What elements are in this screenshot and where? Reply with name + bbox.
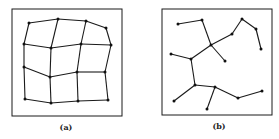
- graph-node: [206, 108, 209, 111]
- graph-node: [23, 43, 26, 46]
- graph-node: [23, 66, 26, 69]
- graph-node: [110, 44, 113, 47]
- graph-node: [76, 71, 79, 74]
- graph-edge: [202, 20, 211, 45]
- panel-a-grid-mesh: [12, 9, 122, 116]
- graph-edge: [242, 19, 256, 29]
- graph-node: [104, 71, 107, 74]
- graph-node: [170, 53, 173, 56]
- graph-node: [261, 90, 264, 93]
- graph-edge: [24, 67, 25, 99]
- graph-edge: [105, 72, 108, 100]
- graph-edge: [24, 67, 50, 77]
- graph-edge: [29, 19, 58, 23]
- graph-edge: [77, 44, 81, 72]
- graph-node: [28, 22, 31, 25]
- graph-edge: [256, 29, 261, 49]
- graph-node: [231, 33, 234, 36]
- graph-edge: [191, 59, 195, 85]
- graph-node: [105, 27, 108, 30]
- graph-edge: [78, 100, 108, 101]
- graph-node: [177, 23, 180, 26]
- graph-edge: [25, 99, 51, 103]
- graph-edge: [178, 20, 202, 24]
- graph-edge: [195, 85, 215, 87]
- graph-edge: [105, 45, 111, 72]
- graph-edge: [174, 85, 195, 101]
- graph-node: [237, 97, 240, 100]
- graph-node: [50, 47, 53, 50]
- graph-node: [194, 84, 197, 87]
- graph-node: [107, 99, 110, 102]
- diagram-canvas: [0, 0, 279, 139]
- graph-edge: [81, 44, 111, 45]
- graph-edge: [24, 44, 51, 48]
- panel-a-caption: (a): [60, 123, 73, 131]
- graph-node: [255, 28, 258, 31]
- graph-node: [50, 102, 53, 105]
- graph-edge: [50, 72, 77, 77]
- panel-b-caption: (b): [212, 122, 225, 130]
- graph-edge: [77, 72, 78, 101]
- graph-node: [190, 58, 193, 61]
- graph-edge: [215, 87, 238, 98]
- graph-edge: [211, 34, 232, 45]
- graph-edge: [58, 19, 86, 21]
- graph-node: [24, 98, 27, 101]
- graph-node: [49, 76, 52, 79]
- graph-edge: [51, 101, 78, 103]
- graph-edge: [51, 19, 58, 48]
- panel-b-tree-graph: [162, 9, 272, 115]
- graph-edge: [232, 19, 242, 34]
- graph-edge: [238, 91, 262, 98]
- graph-node: [224, 60, 227, 63]
- graph-edge: [50, 77, 51, 103]
- graph-node: [210, 44, 213, 47]
- graph-edge: [24, 23, 29, 44]
- figure: (a) (b): [0, 0, 279, 139]
- graph-edge: [51, 44, 81, 48]
- graph-node: [77, 100, 80, 103]
- graph-node: [57, 18, 60, 21]
- graph-edge: [81, 21, 86, 44]
- graph-node: [85, 20, 88, 23]
- graph-node: [241, 18, 244, 21]
- graph-node: [214, 86, 217, 89]
- graph-edge: [207, 87, 215, 109]
- graph-node: [201, 19, 204, 22]
- graph-edge: [171, 54, 191, 59]
- graph-edge: [191, 45, 211, 59]
- graph-edge: [50, 48, 51, 77]
- graph-edge: [106, 28, 111, 45]
- graph-edge: [86, 21, 106, 28]
- graph-node: [80, 43, 83, 46]
- graph-node: [173, 100, 176, 103]
- graph-edge: [211, 45, 225, 61]
- graph-node: [260, 48, 263, 51]
